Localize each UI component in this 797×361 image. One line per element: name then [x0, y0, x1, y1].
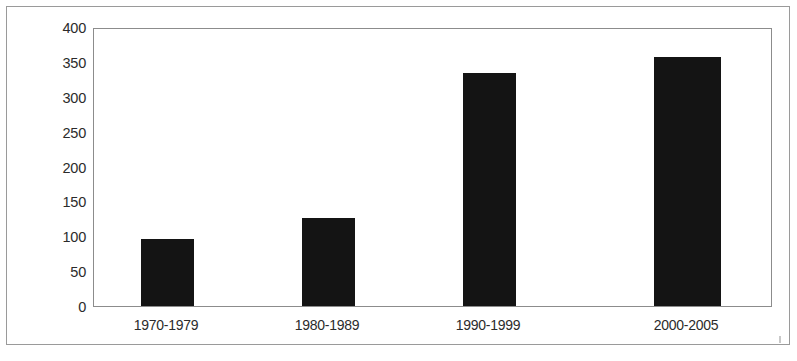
x-axis-tick-label: 1970-1979: [134, 317, 198, 333]
y-axis-tick-label: 400: [62, 21, 86, 36]
bar-1970-1979: [141, 239, 194, 306]
bar-1990-1999: [463, 73, 516, 306]
x-axis-tick-labels: 1970-19791980-19891990-19992000-2005: [93, 317, 772, 341]
y-axis-tick-label: 150: [62, 195, 86, 210]
y-axis-tick-label: 250: [62, 125, 86, 140]
y-axis-tick-label: 100: [62, 230, 86, 245]
x-axis-tick-label: 2000-2005: [654, 317, 718, 333]
y-axis-tick-label: 350: [62, 56, 86, 71]
y-axis-tick-label: 50: [70, 265, 86, 280]
y-axis-tick-label: 0: [78, 300, 86, 315]
bars-layer: [94, 29, 771, 306]
bar-chart-figure: Number of Reports 0501001502002503003504…: [0, 0, 797, 361]
x-axis-tick-label: 1980-1989: [295, 317, 359, 333]
plot-area: [93, 28, 772, 307]
bar-1980-1989: [302, 218, 355, 306]
x-axis-tick-label: 1990-1999: [456, 317, 520, 333]
bar-2000-2005: [654, 57, 721, 306]
y-axis-title: Number of Reports: [14, 0, 44, 58]
y-axis-tick-label: 300: [62, 91, 86, 106]
y-axis-tick-labels: 050100150200250300350400: [48, 28, 86, 307]
y-axis-tick-label: 200: [62, 160, 86, 175]
scan-artifact-speck: [779, 336, 781, 343]
